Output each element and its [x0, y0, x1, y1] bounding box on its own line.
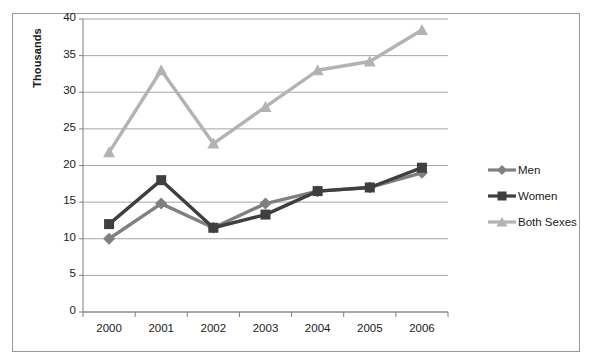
chart-legend: Men Women Both Sexes — [487, 157, 579, 235]
series-layer — [103, 24, 428, 245]
chart-root: Thousands 0510152025303540 2000200120022… — [0, 0, 594, 362]
square-marker — [156, 175, 166, 185]
square-marker — [104, 219, 114, 229]
square-marker — [208, 223, 218, 233]
legend-label-both-sexes: Both Sexes — [517, 216, 577, 228]
series-men — [103, 167, 428, 245]
legend-label-women: Women — [517, 190, 557, 202]
women-series-key-icon — [487, 189, 517, 203]
triangle-marker — [155, 64, 167, 75]
gridlines — [83, 19, 448, 312]
series-both-sexes — [103, 24, 428, 157]
square-marker — [365, 182, 375, 192]
series-line — [109, 30, 422, 152]
triangle-marker — [416, 24, 428, 35]
square-marker — [261, 210, 271, 220]
diamond-marker — [260, 198, 272, 210]
legend-item-both-sexes[interactable]: Both Sexes — [487, 209, 579, 235]
square-marker — [417, 163, 427, 173]
men-series-key-icon — [487, 163, 517, 177]
axis-lines — [79, 19, 448, 317]
square-marker — [313, 186, 323, 196]
both-sexes-series-key-icon — [487, 215, 517, 229]
legend-item-men[interactable]: Men — [487, 157, 579, 183]
legend-label-men: Men — [517, 164, 540, 176]
legend-item-women[interactable]: Women — [487, 183, 579, 209]
